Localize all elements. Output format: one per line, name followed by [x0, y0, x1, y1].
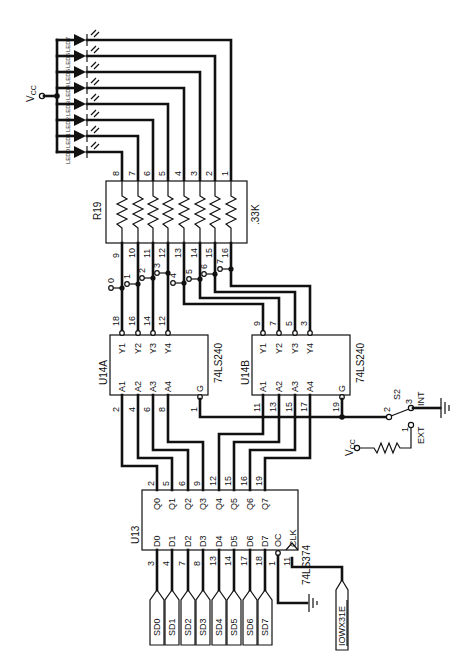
pin-name: D5 [229, 535, 239, 547]
pin-number: 4 [127, 407, 137, 412]
led-icon [74, 66, 86, 78]
s2-pin-label: 1 [400, 427, 410, 432]
pin-name: Y2 [274, 343, 284, 354]
r19-pin-label: 1 [220, 171, 230, 176]
sd-connector-label: SD1 [167, 618, 177, 636]
test-point-label: 3 [152, 263, 162, 268]
r19-pin-label: 16 [220, 248, 230, 258]
r19-body [106, 181, 247, 243]
bus-connectors: SD0SD1SD2SD3SD4SD5SD6SD7 [150, 590, 272, 645]
pin-name: A1 [258, 381, 268, 392]
r19-pin-label: 7 [127, 171, 137, 176]
s2-pin-label: 2 [382, 407, 392, 412]
pin-name: D3 [198, 535, 208, 547]
s2-pin2-terminal [386, 414, 391, 419]
pin-number: 7 [177, 561, 187, 566]
inverting-output-bubble [277, 331, 282, 336]
test-point-label: 0 [106, 278, 116, 283]
pin-number: 18 [254, 556, 264, 566]
pin-name: D2 [183, 535, 193, 547]
pin-number: 13 [268, 402, 278, 412]
led-icon [74, 130, 86, 142]
clk-wire [292, 558, 342, 580]
pin-number: 16 [239, 476, 249, 486]
pin-name: Q2 [183, 498, 193, 510]
pin-name: Q3 [198, 498, 208, 510]
test-point-terminal [140, 276, 145, 281]
pin-number: 19 [331, 402, 341, 412]
led-cathode-wire [87, 88, 184, 181]
led-cathode-wire [87, 56, 215, 181]
iowx31e-label: IOWX31E [337, 606, 347, 646]
r19-ref-label: R19 [92, 201, 103, 220]
inverting-output-bubble [308, 331, 313, 336]
u14b-part-label: 74LS240 [355, 343, 366, 383]
s2-pin-label: 3 [404, 399, 414, 404]
pin-name: Q5 [229, 498, 239, 510]
pin-name: Y4 [163, 343, 173, 354]
pin-number: 2 [111, 407, 121, 412]
pin-name: A4 [163, 381, 173, 392]
led-label: LED3 [65, 100, 71, 116]
led-label: LED7 [65, 36, 71, 52]
r19-pin-label: 3 [189, 171, 199, 176]
ground-icon [441, 398, 449, 418]
pin-name: Q4 [214, 498, 224, 510]
vcc-label: VCC [25, 85, 37, 102]
inverting-output-bubble [136, 331, 141, 336]
schematic: VCC LED7LED6LED5LED4LED3LED2LED1LED0 R19… [0, 0, 468, 670]
pin-name: A2 [133, 381, 143, 392]
pin-number: 5 [161, 481, 171, 486]
test-point-label: 1 [122, 274, 132, 279]
switch-s2: VCC S2 2 3 1 INT EXT [200, 389, 449, 456]
pin-number: 14 [142, 316, 152, 326]
u14a-ref-label: U14A [98, 360, 109, 385]
pin-name: D6 [245, 535, 255, 547]
junction-dot [339, 414, 345, 420]
r19-pin-label: 13 [173, 248, 183, 258]
led-icon [74, 34, 86, 46]
light-emission-icon [91, 46, 99, 53]
sd-connector-label: SD7 [260, 618, 270, 636]
inverting-output-bubble [166, 331, 171, 336]
pin-number: 13 [208, 556, 218, 566]
pin-name: A2 [274, 381, 284, 392]
s2-ext-label: EXT [416, 426, 426, 444]
pin-number: 11 [252, 403, 262, 412]
pin-number: 3 [146, 561, 156, 566]
r19-value-label: .33K [250, 204, 261, 225]
pin-number: 1 [189, 407, 199, 412]
led-cathode-wire [87, 104, 168, 181]
light-emission-icon [91, 94, 99, 101]
pin-number: 17 [299, 402, 309, 412]
led-label: LED1 [65, 132, 71, 148]
test-point-label: 2 [137, 268, 147, 273]
pin-number: 6 [177, 481, 187, 486]
sd-connector-label: SD4 [214, 618, 224, 636]
pin-number: 9 [252, 321, 262, 326]
test-point-terminal [155, 271, 160, 276]
ic-u14a: U14A 74LS240 18Y1A1216Y2A2414Y3A3612Y4A4… [98, 316, 224, 412]
pin-name: D4 [214, 535, 224, 547]
led-icon [74, 82, 86, 94]
pin-number: 2 [146, 481, 156, 486]
sd-connector-label: SD5 [229, 618, 239, 636]
r19-pin-label: 12 [157, 248, 167, 258]
u14a-part-label: 74LS240 [213, 343, 224, 383]
pin-name: A4 [305, 381, 315, 392]
led-label: LED5 [65, 68, 71, 84]
pin-number: 4 [161, 561, 171, 566]
led-label: LED6 [65, 52, 71, 68]
test-point-terminal [218, 267, 223, 272]
pin-name: G [337, 385, 347, 392]
s2-vcc-label: VCC [344, 439, 356, 456]
led-label: LED2 [65, 116, 71, 132]
test-point-terminal [109, 286, 114, 291]
led-label: LED0 [65, 148, 71, 164]
r19-pin-label: 15 [204, 248, 214, 258]
strobe-connector: IOWX31E [278, 556, 348, 650]
pin-number: 16 [127, 316, 137, 326]
pin-number: 6 [142, 407, 152, 412]
ic-u13: U13 74LS374 2Q0D035Q1D146Q2D279Q3D3812Q4… [122, 395, 312, 590]
test-point-label: 6 [199, 264, 209, 269]
